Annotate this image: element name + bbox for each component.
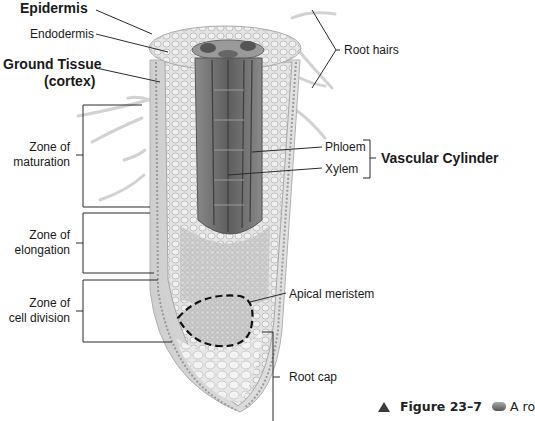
media-link-icon[interactable] [492,402,506,411]
figure-caption: Figure 23–7 A ro [378,399,535,414]
label-epidermis: Epidermis [20,0,88,16]
label-zone-maturation-1: Zone of [0,140,70,154]
label-root-hairs: Root hairs [344,43,399,57]
label-zone-division-2: cell division [0,311,70,325]
label-endodermis: Endodermis [30,27,94,41]
label-zone-division-1: Zone of [0,296,70,310]
label-phloem: Phloem [325,140,366,154]
label-vascular-cylinder: Vascular Cylinder [381,150,499,166]
label-ground-tissue-cortex: (cortex) [44,73,95,89]
caption-text: A ro [510,399,535,414]
label-zone-maturation-2: maturation [0,155,70,169]
figure-number: Figure 23–7 [400,399,482,414]
label-zone-elongation-1: Zone of [0,228,70,242]
label-zone-elongation-2: elongation [0,243,70,257]
triangle-icon [378,402,390,412]
label-apical-meristem: Apical meristem [289,287,374,301]
label-xylem: Xylem [325,162,358,176]
label-ground-tissue: Ground Tissue [3,56,102,72]
label-root-cap: Root cap [289,370,337,384]
